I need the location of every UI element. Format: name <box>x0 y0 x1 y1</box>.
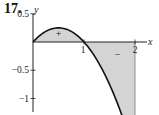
x-tick-label: 2 <box>133 45 138 55</box>
x-tick-label: 1 <box>81 45 86 55</box>
y-tick-label: −0.5 <box>12 65 29 75</box>
y-tick-label: −1 <box>19 94 29 104</box>
area-chart: +− yx120.5−0.5−1−1.5−2 <box>0 0 159 115</box>
y-tick-label: 0.5 <box>17 9 29 19</box>
y-axis-label: y <box>33 4 39 15</box>
sign-label: + <box>56 28 62 39</box>
x-axis-label: x <box>147 36 153 47</box>
sign-label: − <box>115 49 121 60</box>
